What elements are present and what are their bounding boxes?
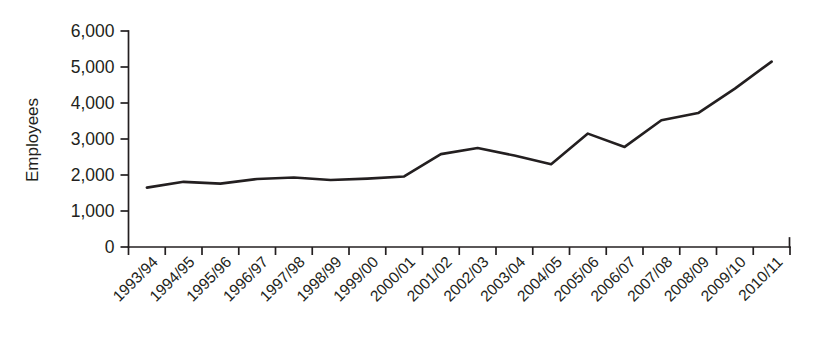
y-axis-group: 01,0002,0003,0004,0005,0006,000 Employee… — [23, 21, 129, 257]
y-tick-label: 1,000 — [71, 201, 115, 221]
y-axis-title: Employees — [23, 98, 42, 182]
employees-series-line — [147, 62, 772, 188]
chart-canvas: 01,0002,0003,0004,0005,0006,000 Employee… — [0, 0, 821, 351]
y-tick-label: 2,000 — [71, 165, 115, 185]
employees-line-chart: 01,0002,0003,0004,0005,0006,000 Employee… — [0, 0, 821, 351]
x-axis-group: 1993/941994/951995/961996/971997/981998/… — [109, 238, 790, 305]
y-tick-labels: 01,0002,0003,0004,0005,0006,000 — [71, 21, 115, 257]
y-tick-marks — [121, 31, 129, 247]
y-tick-label: 3,000 — [71, 129, 115, 149]
y-tick-label: 4,000 — [71, 93, 115, 113]
y-tick-label: 0 — [105, 237, 115, 257]
y-tick-label: 5,000 — [71, 57, 115, 77]
x-tick-marks — [129, 247, 791, 255]
y-tick-label: 6,000 — [71, 21, 115, 41]
x-tick-labels: 1993/941994/951995/961996/971997/981998/… — [109, 253, 785, 305]
